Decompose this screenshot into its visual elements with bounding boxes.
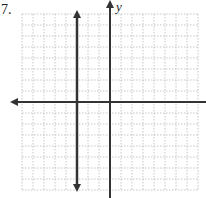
coordinate-plane: y bbox=[0, 0, 206, 198]
y-axis-label: y bbox=[114, 0, 122, 14]
